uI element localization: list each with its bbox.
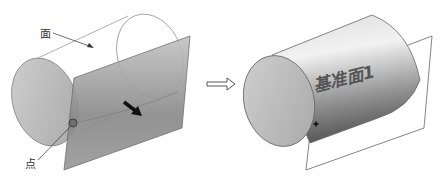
point-marker	[69, 119, 77, 127]
diagram-canvas	[0, 0, 440, 183]
point-label: 点	[25, 155, 36, 171]
left-figure	[1, 5, 195, 170]
face-label: 面	[40, 25, 51, 41]
transform-arrow-icon	[207, 78, 235, 90]
